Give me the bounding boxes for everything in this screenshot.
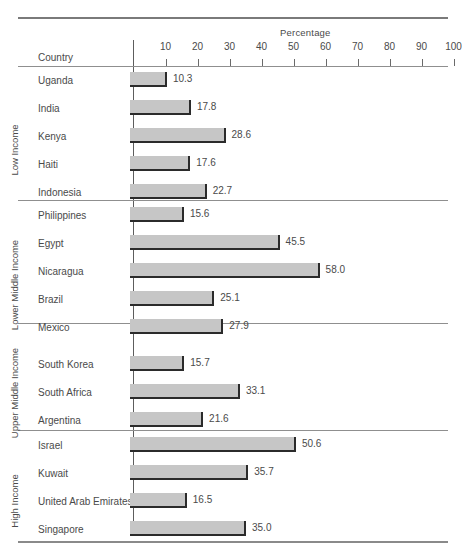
chart-row[interactable]: Egypt45.5	[0, 232, 462, 260]
value-bar[interactable]	[130, 235, 280, 250]
chart-row[interactable]: Uganda10.3	[0, 69, 462, 97]
value-bar[interactable]	[130, 465, 248, 480]
x-axis-tick	[198, 59, 199, 66]
country-label: South Korea	[38, 359, 94, 370]
country-label: United Arab Emirates	[38, 496, 133, 507]
chart-row[interactable]: Mexico27.9	[0, 316, 462, 344]
value-label: 25.1	[220, 292, 239, 303]
value-label: 17.6	[196, 157, 215, 168]
value-label: 35.0	[252, 522, 271, 533]
chart-row[interactable]: South Africa33.1	[0, 381, 462, 409]
x-axis-tick	[358, 59, 359, 66]
x-axis-tick-label: 50	[288, 41, 299, 52]
country-label: Philippines	[38, 210, 86, 221]
country-label: Israel	[38, 440, 62, 451]
country-label: Kenya	[38, 131, 66, 142]
x-axis-tick	[422, 59, 423, 66]
chart-row[interactable]: South Korea15.7	[0, 353, 462, 381]
country-label: Egypt	[38, 238, 64, 249]
country-label: Mexico	[38, 322, 70, 333]
country-label: Argentina	[38, 415, 81, 426]
country-label: Singapore	[38, 524, 84, 535]
x-axis-tick	[326, 59, 327, 66]
x-axis-tick	[166, 59, 167, 66]
country-label: India	[38, 103, 60, 114]
country-label: Indonesia	[38, 187, 81, 198]
value-bar[interactable]	[130, 156, 190, 171]
x-axis-tick-label: 70	[352, 41, 363, 52]
value-bar[interactable]	[130, 291, 214, 306]
chart-row[interactable]: Nicaragua58.0	[0, 260, 462, 288]
value-bar[interactable]	[130, 412, 203, 427]
value-label: 35.7	[254, 466, 273, 477]
x-axis-tick	[454, 59, 455, 66]
chart-row[interactable]: Israel50.6	[0, 434, 462, 462]
value-label: 27.9	[229, 320, 248, 331]
x-axis-tick	[262, 59, 263, 66]
chart-row[interactable]: Kuwait35.7	[0, 462, 462, 490]
x-axis-tick-label: 60	[320, 41, 331, 52]
value-bar[interactable]	[130, 184, 207, 199]
country-label: Haiti	[38, 159, 58, 170]
chart-row[interactable]: Brazil25.1	[0, 288, 462, 316]
group-separator-rule	[18, 66, 448, 67]
value-bar[interactable]	[130, 384, 240, 399]
x-axis-tick-label: 30	[224, 41, 235, 52]
x-axis-tick	[230, 59, 231, 66]
x-axis-tick	[294, 59, 295, 66]
chart-row[interactable]: United Arab Emirates16.5	[0, 490, 462, 518]
bottom-border-rule	[18, 541, 448, 543]
x-axis-tick	[390, 59, 391, 66]
x-axis-tick-label: 40	[256, 41, 267, 52]
value-bar[interactable]	[130, 207, 184, 222]
country-column-header: Country	[38, 52, 73, 63]
x-axis-tick-label: 90	[416, 41, 427, 52]
chart-row[interactable]: Haiti17.6	[0, 153, 462, 181]
value-bar[interactable]	[130, 100, 191, 115]
x-axis-title: Percentage	[280, 27, 331, 38]
value-bar[interactable]	[130, 356, 184, 371]
country-label: Kuwait	[38, 468, 68, 479]
value-label: 50.6	[302, 438, 321, 449]
x-axis-tick-label: 100	[445, 41, 462, 52]
value-label: 21.6	[209, 413, 228, 424]
chart-row[interactable]: Philippines15.6	[0, 204, 462, 232]
value-bar[interactable]	[130, 263, 320, 278]
value-label: 15.7	[190, 357, 209, 368]
value-label: 58.0	[326, 264, 345, 275]
value-bar[interactable]	[130, 128, 226, 143]
x-axis-tick-label: 20	[192, 41, 203, 52]
value-bar[interactable]	[130, 72, 167, 87]
value-label: 22.7	[213, 185, 232, 196]
value-bar[interactable]	[130, 521, 246, 536]
country-label: Uganda	[38, 75, 73, 86]
value-label: 45.5	[286, 236, 305, 247]
chart-row[interactable]: Argentina21.6	[0, 409, 462, 437]
x-axis-tick-label: 10	[160, 41, 171, 52]
x-axis-tick-label: 80	[384, 41, 395, 52]
value-bar[interactable]	[130, 493, 187, 508]
country-label: South Africa	[38, 387, 92, 398]
country-label: Brazil	[38, 294, 63, 305]
chart-row[interactable]: Kenya28.6	[0, 125, 462, 153]
country-label: Nicaragua	[38, 266, 84, 277]
value-label: 10.3	[173, 73, 192, 84]
chart-row[interactable]: India17.8	[0, 97, 462, 125]
value-label: 15.6	[190, 208, 209, 219]
value-label: 16.5	[193, 494, 212, 505]
value-label: 33.1	[246, 385, 265, 396]
value-label: 17.8	[197, 101, 216, 112]
value-bar[interactable]	[130, 319, 223, 334]
value-label: 28.6	[232, 129, 251, 140]
top-border-rule	[18, 17, 448, 19]
value-bar[interactable]	[130, 437, 296, 452]
